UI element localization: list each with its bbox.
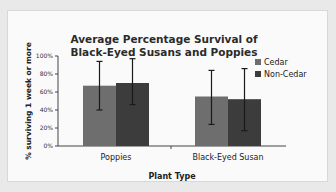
- y-tick-label: 20%: [40, 124, 54, 131]
- x-axis-title: Plant Type: [148, 172, 196, 181]
- legend-swatch-non-cedar: [255, 71, 261, 77]
- y-tick-label: 40%: [40, 106, 54, 113]
- legend-swatch-cedar: [255, 59, 261, 65]
- legend: Cedar Non-Cedar: [255, 58, 307, 79]
- y-axis-title: % surviving 1 week or more: [24, 42, 33, 160]
- legend-label-non-cedar: Non-Cedar: [264, 70, 307, 79]
- y-ticks: 0%20%40%60%80%100%: [36, 52, 58, 149]
- y-tick-label: 100%: [36, 52, 53, 59]
- y-tick-label: 0%: [43, 142, 53, 149]
- bars: [83, 59, 261, 146]
- y-tick-label: 60%: [40, 88, 54, 95]
- category-labels: PoppiesBlack-Eyed Susan: [101, 153, 264, 162]
- legend-label-cedar: Cedar: [264, 58, 288, 67]
- category-label: Black-Eyed Susan: [192, 153, 263, 162]
- y-tick-label: 80%: [40, 70, 54, 77]
- category-label: Poppies: [101, 153, 132, 162]
- bar-chart: 0%20%40%60%80%100% PoppiesBlack-Eyed Sus…: [0, 0, 336, 192]
